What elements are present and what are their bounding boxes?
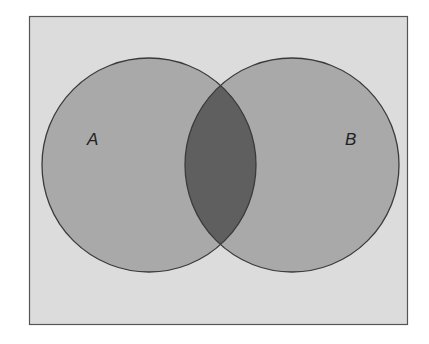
set-a-label: A	[86, 130, 98, 149]
venn-diagram: A B	[0, 0, 429, 344]
set-b-label: B	[345, 130, 356, 149]
